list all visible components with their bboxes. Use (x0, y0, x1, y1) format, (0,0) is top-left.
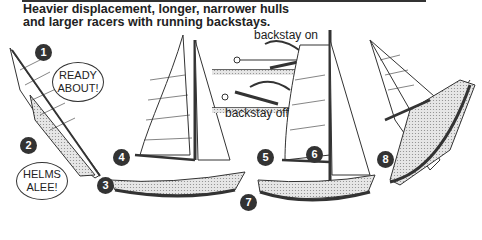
marker-1: 1 (35, 44, 52, 61)
speech-bubble-helms-alee: HELMS ALEE! (16, 162, 68, 200)
marker-2: 2 (20, 137, 37, 154)
backstay-off-label: backstay off (225, 106, 289, 120)
marker-4: 4 (113, 149, 130, 166)
backstay-on-label: backstay on (254, 28, 318, 42)
speech-bubble-ready-about: READY ABOUT! (52, 62, 104, 102)
marker-6: 6 (306, 146, 323, 163)
marker-8: 8 (377, 151, 394, 168)
marker-3: 3 (97, 177, 114, 194)
marker-5: 5 (257, 149, 274, 166)
marker-7: 7 (240, 194, 257, 211)
